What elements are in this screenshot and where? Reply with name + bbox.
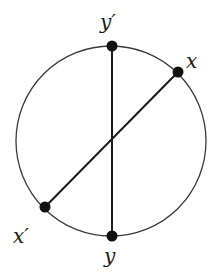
label-y: y [103, 244, 116, 268]
point-y-prime [107, 41, 118, 52]
point-x-prime [40, 202, 51, 213]
point-y [107, 231, 118, 242]
label-x-prime: x′ [13, 224, 29, 248]
label-x: x [186, 49, 197, 73]
label-y-prime: y′ [99, 10, 116, 34]
point-x [173, 67, 184, 78]
two-chords-diagram: y′ x x′ y [0, 0, 214, 277]
